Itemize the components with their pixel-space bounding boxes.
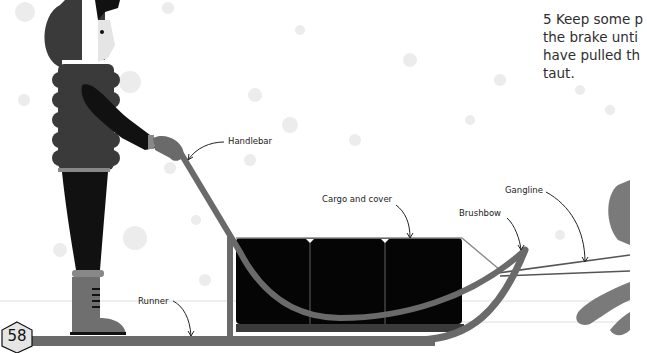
label-runner: Runner bbox=[138, 296, 168, 306]
instruction-line: 5 Keep some p bbox=[543, 10, 647, 28]
instruction-line: taut. bbox=[543, 64, 647, 82]
instruction-line: have pulled th bbox=[543, 46, 647, 64]
dog-partial bbox=[576, 180, 630, 335]
label-handlebar: Handlebar bbox=[228, 136, 272, 146]
page-number: 58 bbox=[1, 327, 33, 345]
label-brushbow: Brushbow bbox=[459, 208, 501, 218]
cargo-and-cover bbox=[236, 238, 500, 324]
runner bbox=[30, 336, 435, 346]
label-cargo: Cargo and cover bbox=[322, 194, 392, 204]
person bbox=[45, 0, 184, 335]
label-gangline: Gangline bbox=[505, 185, 543, 195]
instruction-line: the brake unti bbox=[543, 28, 647, 46]
instruction-text: 5 Keep some p the brake unti have pulled… bbox=[543, 10, 647, 82]
